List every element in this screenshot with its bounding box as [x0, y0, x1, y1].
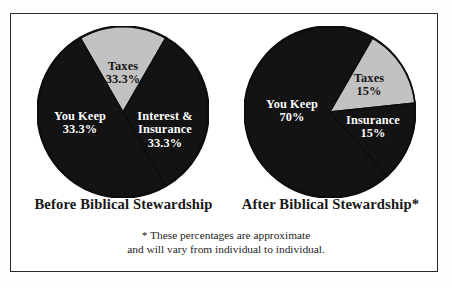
pie-chart-figure: Taxes 33.3% You Keep 33.3% Interest & In…: [0, 0, 452, 288]
pie-before: Taxes 33.3% You Keep 33.3% Interest & In…: [37, 26, 209, 198]
pie-after: You Keep 70% Taxes 15% Insurance 15%: [244, 26, 416, 198]
caption-before-biblical-stewardship: Before Biblical Stewardship: [20, 196, 227, 213]
footnote-line-2: and will vary from individual to individ…: [26, 242, 426, 256]
pie-before-svg: [37, 26, 209, 198]
footnote-line-1: * These percentages are approximate: [26, 228, 426, 242]
caption-after-biblical-stewardship: After Biblical Stewardship*: [228, 196, 433, 213]
chart-before-biblical-stewardship: Taxes 33.3% You Keep 33.3% Interest & In…: [37, 26, 209, 198]
chart-after-biblical-stewardship: You Keep 70% Taxes 15% Insurance 15%: [244, 26, 416, 198]
pie-after-svg: [244, 26, 416, 198]
footnote: * These percentages are approximate and …: [26, 228, 426, 257]
